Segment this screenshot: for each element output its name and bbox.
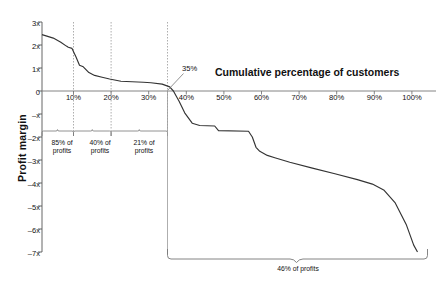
crossing-callout-leader	[168, 74, 184, 91]
brace-46-percent	[168, 249, 428, 263]
plot-area	[0, 0, 443, 287]
profit-margin-curve	[42, 35, 418, 252]
brace-85-percent	[42, 130, 74, 136]
brace-21-percent	[111, 130, 167, 136]
brace-40-percent	[74, 130, 112, 136]
whale-curve-chart: Profit margin Cumulative percentage of c…	[0, 0, 443, 287]
